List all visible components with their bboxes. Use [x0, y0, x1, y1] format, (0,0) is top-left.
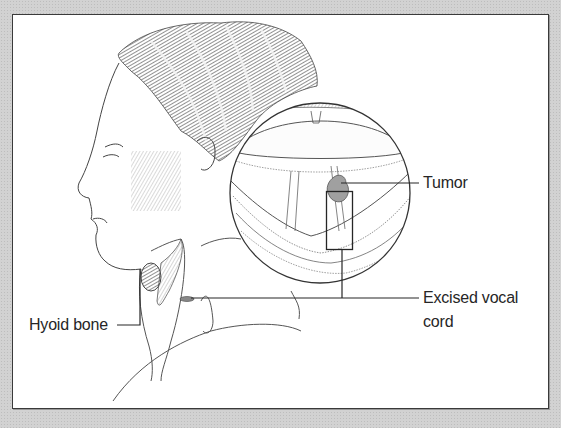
excised-vocal-cord-label-line1: Excised vocal: [423, 287, 518, 309]
tumor-label: Tumor: [423, 172, 468, 194]
hyoid-leader-line: [117, 269, 140, 325]
anatomy-illustration: [13, 15, 548, 408]
figure-panel: Tumor Excised vocal cord Hyoid bone: [12, 14, 549, 409]
cheek-shading: [131, 151, 181, 211]
hyoid-bone-drawing: [141, 263, 161, 291]
hyoid-bone-label: Hyoid bone: [29, 314, 108, 336]
excised-vocal-cord-label-line2: cord: [423, 311, 453, 333]
larynx-inset: [230, 95, 411, 283]
